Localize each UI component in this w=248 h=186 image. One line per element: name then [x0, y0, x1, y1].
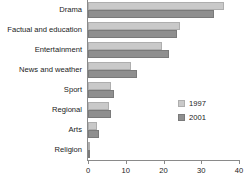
- x-tick-mark: [88, 160, 89, 164]
- bar-2001: [88, 90, 114, 98]
- category-label: Sport: [0, 86, 82, 94]
- category-label: News and weather: [0, 66, 82, 74]
- legend-item-2001: 2001: [178, 113, 206, 122]
- bar-1997: [88, 142, 90, 150]
- bar-group: [88, 22, 239, 38]
- legend-label-2001: 2001: [189, 113, 206, 122]
- category-label: Factual and education: [0, 26, 82, 34]
- x-tick-mark: [239, 160, 240, 164]
- x-tick-mark: [201, 160, 202, 164]
- category-label: Drama: [0, 6, 82, 14]
- bar-chart: DramaFactual and educationEntertainmentN…: [0, 0, 248, 186]
- bar-group: [88, 102, 239, 118]
- legend-swatch-2001: [178, 114, 185, 121]
- category-label: Regional: [0, 106, 82, 114]
- bar-2001: [88, 110, 111, 118]
- bar-1997: [88, 82, 111, 90]
- legend-swatch-1997: [178, 100, 185, 107]
- chart-legend: 1997 2001: [178, 99, 206, 127]
- bar-2001: [88, 10, 214, 18]
- x-tick-label: 0: [86, 166, 90, 175]
- bar-2001: [88, 70, 137, 78]
- x-tick-label: 30: [197, 166, 205, 175]
- bar-2001: [88, 150, 90, 158]
- bar-group: [88, 42, 239, 58]
- bar-group: [88, 82, 239, 98]
- bar-2001: [88, 50, 169, 58]
- legend-label-1997: 1997: [189, 99, 206, 108]
- bar-2001: [88, 130, 99, 138]
- bar-1997: [88, 22, 180, 30]
- category-axis: DramaFactual and educationEntertainmentN…: [0, 0, 85, 160]
- x-tick-label: 40: [235, 166, 243, 175]
- bar-1997: [88, 2, 224, 10]
- bar-1997: [88, 122, 97, 130]
- bar-1997: [88, 42, 162, 50]
- legend-item-1997: 1997: [178, 99, 206, 108]
- bar-group: [88, 122, 239, 138]
- plot-area: 010203040: [88, 0, 239, 160]
- bar-group: [88, 62, 239, 78]
- x-tick-label: 20: [159, 166, 167, 175]
- bar-1997: [88, 62, 131, 70]
- bar-2001: [88, 30, 177, 38]
- bar-group: [88, 2, 239, 18]
- category-label: Entertainment: [0, 46, 82, 54]
- category-label: Arts: [0, 126, 82, 134]
- x-tick-mark: [164, 160, 165, 164]
- bar-1997: [88, 102, 109, 110]
- x-tick-label: 10: [122, 166, 130, 175]
- x-tick-mark: [126, 160, 127, 164]
- bar-group: [88, 142, 239, 158]
- category-label: Religion: [0, 146, 82, 154]
